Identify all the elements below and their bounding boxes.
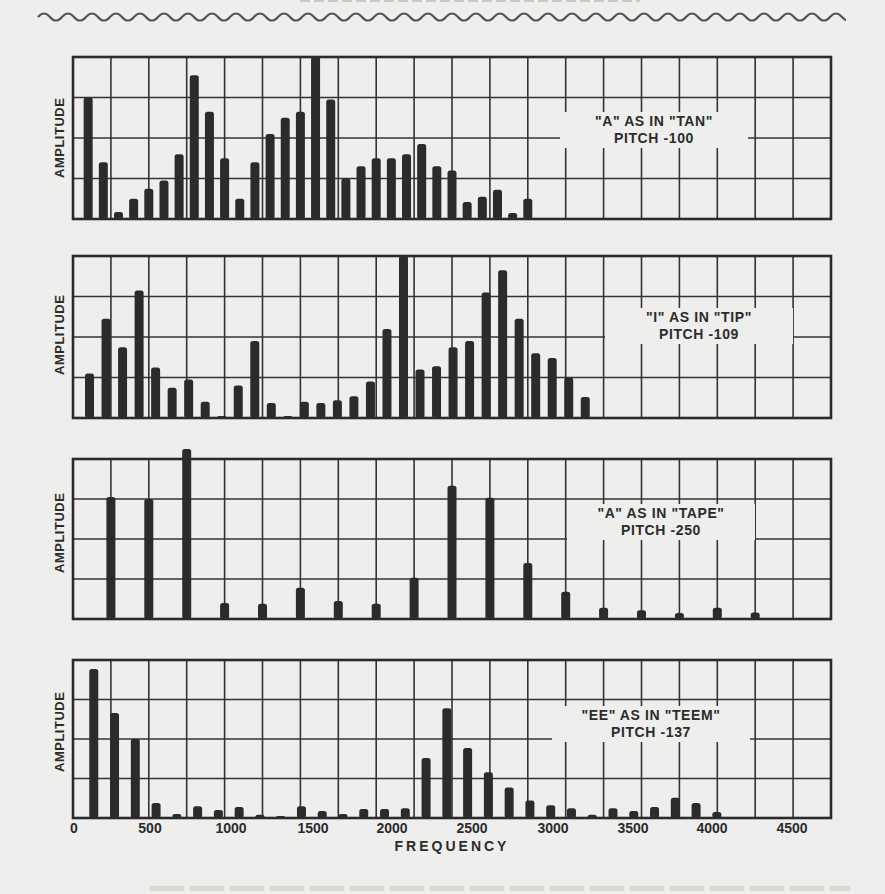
harmonic-bar <box>525 801 534 818</box>
harmonic-bar <box>588 815 597 818</box>
harmonic-bar <box>255 815 264 818</box>
harmonic-bar <box>380 809 389 818</box>
harmonic-bar <box>422 758 431 818</box>
harmonic-bar <box>442 708 451 818</box>
x-tick: 0 <box>70 820 78 836</box>
harmonic-bar <box>567 808 576 818</box>
panel-caption: "EE" AS IN "TEEM" PITCH -137 <box>552 706 750 742</box>
harmonic-bar <box>463 748 472 818</box>
chart-grid-and-bars <box>0 0 885 830</box>
caption-vowel: "EE" AS IN "TEEM" <box>556 707 746 724</box>
x-tick: 4500 <box>776 820 807 836</box>
harmonic-bar <box>505 788 514 818</box>
y-axis-label: AMPLITUDE <box>52 692 70 772</box>
harmonic-bar <box>712 812 721 818</box>
x-tick: 3000 <box>537 820 568 836</box>
x-tick: 1000 <box>215 820 246 836</box>
x-axis-ticks: 0 500 1000 1500 2000 2500 3000 3500 4000… <box>0 820 885 840</box>
x-tick: 2000 <box>376 820 407 836</box>
harmonic-bar <box>193 806 202 818</box>
harmonic-bar <box>89 669 98 818</box>
x-tick: 2500 <box>456 820 487 836</box>
harmonic-bar <box>235 807 244 818</box>
harmonic-bar <box>671 798 680 818</box>
caption-pitch: PITCH -137 <box>556 724 746 741</box>
harmonic-bar <box>110 713 119 818</box>
clipped-body-text <box>150 872 850 894</box>
harmonic-bar <box>608 808 617 818</box>
harmonic-bar <box>276 816 285 818</box>
harmonic-bar <box>629 811 638 818</box>
harmonic-bar <box>214 810 223 818</box>
harmonic-bar <box>152 803 161 818</box>
harmonic-bar <box>172 814 181 818</box>
x-tick: 1500 <box>297 820 328 836</box>
harmonic-bar <box>401 808 410 818</box>
harmonic-bar <box>359 809 368 818</box>
harmonic-bar <box>650 807 659 818</box>
harmonic-bar <box>692 803 701 818</box>
x-axis-label: FREQUENCY <box>395 838 510 854</box>
harmonic-bar <box>131 739 140 818</box>
harmonic-bar <box>297 806 306 818</box>
harmonic-bar <box>546 805 555 818</box>
harmonic-bar <box>484 772 493 818</box>
x-tick: 4000 <box>696 820 727 836</box>
x-tick: 500 <box>138 820 161 836</box>
x-tick: 3500 <box>617 820 648 836</box>
harmonic-bar <box>338 814 347 818</box>
harmonic-bar <box>318 811 327 818</box>
